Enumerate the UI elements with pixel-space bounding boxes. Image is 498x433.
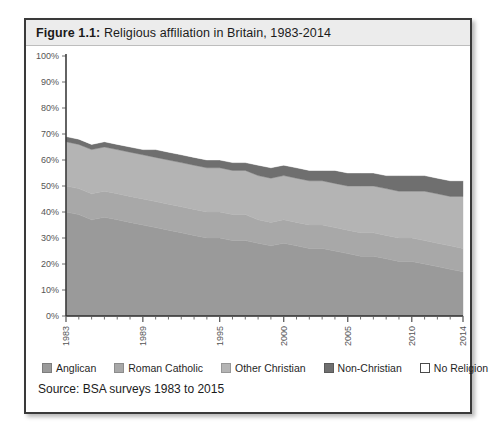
chart-legend: AnglicanRoman CatholicOther ChristianNon… [26,359,470,377]
x-tick-label: 2005 [343,326,353,346]
legend-swatch-icon [114,363,124,373]
x-tick-label: 1983 [61,326,71,346]
y-tick-label: 0% [46,311,59,321]
area-series-group [66,56,463,316]
x-tick-label: 2014 [458,326,468,346]
legend-item-non-christian[interactable]: Non-Christian [324,362,402,374]
y-tick-label: 20% [41,259,59,269]
y-tick-label: 50% [41,181,59,191]
legend-swatch-icon [324,363,334,373]
x-tick-label: 1989 [138,326,148,346]
legend-item-anglican[interactable]: Anglican [42,362,96,374]
y-tick-label: 90% [41,77,59,87]
y-tick-label: 80% [41,103,59,113]
legend-item-roman-catholic[interactable]: Roman Catholic [114,362,203,374]
figure-title: Figure 1.1: Religious affiliation in Bri… [36,26,331,40]
stacked-area-chart: 0%10%20%30%40%50%60%70%80%90%100% 198319… [26,46,470,359]
x-tick-label: 2010 [407,326,417,346]
legend-swatch-icon [42,363,52,373]
y-tick-label: 100% [36,51,59,61]
legend-swatch-icon [221,363,231,373]
legend-label: Non-Christian [338,362,402,374]
chart-plot-area: 0%10%20%30%40%50%60%70%80%90%100% 198319… [26,46,470,359]
legend-label: Other Christian [235,362,306,374]
y-tick-label: 40% [41,207,59,217]
figure-title-bar: Figure 1.1: Religious affiliation in Bri… [26,20,470,46]
y-tick-label: 70% [41,129,59,139]
y-axis: 0%10%20%30%40%50%60%70%80%90%100% [36,51,66,321]
y-tick-label: 30% [41,233,59,243]
y-tick-label: 10% [41,285,59,295]
legend-label: Anglican [56,362,96,374]
source-note: Source: BSA surveys 1983 to 2015 [38,382,224,396]
x-tick-label: 1995 [215,326,225,346]
legend-swatch-icon [420,363,430,373]
figure-number: Figure 1.1: [36,26,100,40]
x-tick-label: 2000 [279,326,289,346]
figure-card: Figure 1.1: Religious affiliation in Bri… [24,18,472,414]
x-axis: 1983198919952000200520102014 [61,316,468,346]
legend-item-no-religion[interactable]: No Religion [420,362,488,374]
y-tick-label: 60% [41,155,59,165]
legend-label: Roman Catholic [128,362,203,374]
legend-label: No Religion [434,362,488,374]
figure-caption: Religious affiliation in Britain, 1983-2… [104,26,331,40]
legend-item-other-christian[interactable]: Other Christian [221,362,306,374]
